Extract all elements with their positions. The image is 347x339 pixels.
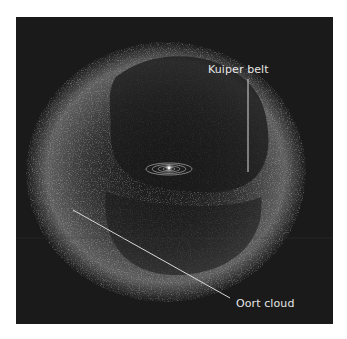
oort-cloud-diagram [16,17,333,324]
oort-cloud-label: Oort cloud [236,297,295,310]
diagram-panel: Kuiper belt Oort cloud [16,17,333,324]
kuiper-belt-label: Kuiper belt [208,63,269,76]
sun [165,164,173,172]
